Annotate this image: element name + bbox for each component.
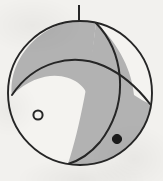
beachball-diagram xyxy=(0,0,163,181)
focal-mechanism-figure xyxy=(0,0,163,181)
p-axis-filled-circle-icon xyxy=(112,134,121,143)
